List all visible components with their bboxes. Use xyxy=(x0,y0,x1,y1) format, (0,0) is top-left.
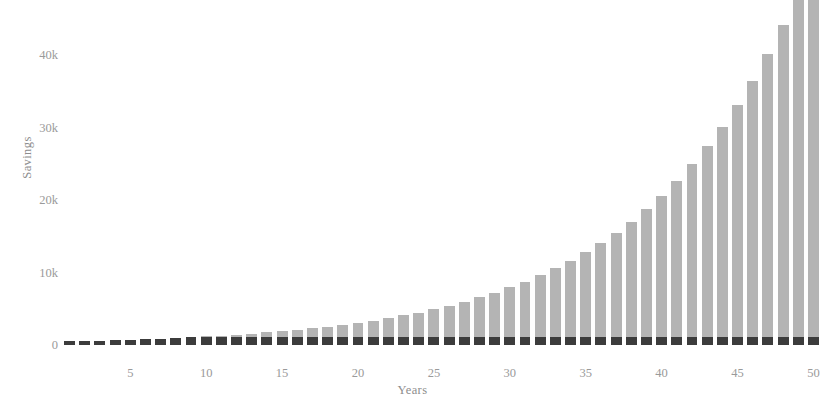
bar-segment-base xyxy=(687,337,698,345)
bar-year-28 xyxy=(474,297,485,345)
bar-segment-base xyxy=(474,337,485,345)
bar-year-49 xyxy=(793,0,804,345)
bar-segment-base xyxy=(428,337,439,345)
bar-segment-base xyxy=(79,341,90,345)
bar-segment-upper xyxy=(793,0,804,345)
bar-segment-base xyxy=(520,337,531,345)
bar-year-12 xyxy=(231,335,242,345)
x-axis-tick-label: 50 xyxy=(793,367,825,380)
bar-segment-base xyxy=(398,337,409,345)
x-axis-title: Years xyxy=(0,383,825,398)
bar-year-3 xyxy=(94,341,105,345)
bar-segment-base xyxy=(747,337,758,345)
bar-segment-base xyxy=(611,337,622,345)
bar-year-47 xyxy=(762,54,773,345)
x-axis-tick-label: 10 xyxy=(186,367,226,380)
bar-year-23 xyxy=(398,315,409,345)
bar-segment-base xyxy=(110,340,121,345)
bar-segment-base xyxy=(170,338,181,345)
bar-year-22 xyxy=(383,318,394,345)
bar-year-46 xyxy=(747,81,758,345)
x-axis-tick-label: 40 xyxy=(642,367,682,380)
bar-year-17 xyxy=(307,328,318,345)
bar-segment-upper xyxy=(550,268,561,345)
bar-year-6 xyxy=(140,339,151,345)
bar-segment-base xyxy=(277,337,288,345)
bar-year-14 xyxy=(261,332,272,345)
bar-segment-base xyxy=(261,337,272,345)
bar-year-31 xyxy=(520,282,531,345)
bar-year-16 xyxy=(292,330,303,345)
bar-segment-base xyxy=(307,337,318,345)
bar-segment-base xyxy=(793,337,804,345)
bar-segment-upper xyxy=(732,105,743,345)
bar-segment-base xyxy=(808,337,819,345)
bar-year-13 xyxy=(246,334,257,345)
bar-year-2 xyxy=(79,341,90,345)
bar-year-9 xyxy=(186,337,197,345)
bar-year-43 xyxy=(702,146,713,345)
bar-segment-base xyxy=(550,337,561,345)
bar-segment-base xyxy=(580,337,591,345)
bar-segment-base xyxy=(778,337,789,345)
bar-year-30 xyxy=(504,287,515,345)
bar-segment-base xyxy=(504,337,515,345)
bar-year-18 xyxy=(322,327,333,345)
bar-year-35 xyxy=(580,252,591,345)
bar-segment-base xyxy=(231,337,242,345)
bar-year-44 xyxy=(717,127,728,345)
bar-segment-base xyxy=(322,337,333,345)
x-axis-tick-label: 15 xyxy=(262,367,302,380)
bar-year-10 xyxy=(201,336,212,345)
bar-segment-base xyxy=(353,337,364,345)
bar-year-42 xyxy=(687,164,698,345)
bar-segment-base xyxy=(671,337,682,345)
plot-area xyxy=(0,0,825,401)
bar-segment-base xyxy=(489,337,500,345)
bar-segment-base xyxy=(595,337,606,345)
bar-segment-upper xyxy=(535,275,546,345)
bar-segment-upper xyxy=(611,233,622,345)
bar-segment-base xyxy=(413,337,424,345)
bar-segment-base xyxy=(459,337,470,345)
bar-segment-upper xyxy=(808,0,819,345)
bar-segment-base xyxy=(762,337,773,345)
bar-segment-base xyxy=(216,337,227,345)
y-axis-title: Savings xyxy=(20,103,35,213)
bar-segment-base xyxy=(94,341,105,345)
bar-segment-upper xyxy=(762,54,773,345)
bar-year-38 xyxy=(626,222,637,345)
bar-segment-base xyxy=(368,337,379,345)
bar-segment-upper xyxy=(778,25,789,345)
bar-year-25 xyxy=(428,309,439,345)
x-axis-tick-label: 25 xyxy=(414,367,454,380)
bar-segment-upper xyxy=(580,252,591,345)
bar-segment-base xyxy=(626,337,637,345)
x-axis-tick-label: 5 xyxy=(110,367,150,380)
bar-year-34 xyxy=(565,261,576,345)
bar-year-1 xyxy=(64,341,75,345)
bar-year-32 xyxy=(535,275,546,345)
bar-segment-upper xyxy=(717,127,728,345)
bar-year-7 xyxy=(155,339,166,345)
bar-segment-base xyxy=(201,337,212,345)
bar-segment-upper xyxy=(520,282,531,345)
bar-segment-upper xyxy=(687,164,698,345)
bar-segment-base xyxy=(656,337,667,345)
bar-year-33 xyxy=(550,268,561,345)
bar-segment-base xyxy=(565,337,576,345)
savings-bar-chart: 010k20k30k40k Savings Years 510152025303… xyxy=(0,0,825,401)
bar-segment-base xyxy=(140,339,151,345)
bar-year-20 xyxy=(353,323,364,345)
bar-segment-upper xyxy=(595,243,606,345)
bar-year-29 xyxy=(489,293,500,345)
bar-segment-base xyxy=(125,340,136,345)
bar-segment-base xyxy=(702,337,713,345)
bar-segment-base xyxy=(717,337,728,345)
bar-year-50 xyxy=(808,0,819,345)
x-axis-tick-label: 30 xyxy=(490,367,530,380)
bar-segment-upper xyxy=(641,209,652,345)
bar-year-45 xyxy=(732,105,743,345)
bar-segment-base xyxy=(444,337,455,345)
bar-segment-upper xyxy=(671,181,682,345)
